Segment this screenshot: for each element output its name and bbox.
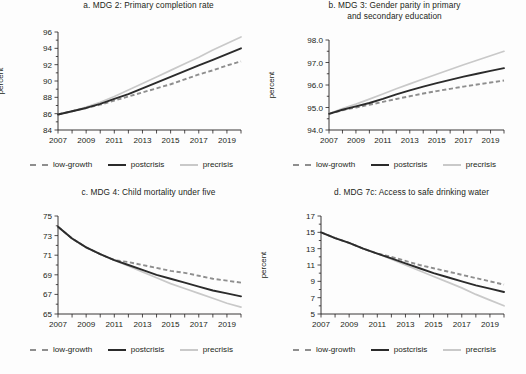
svg-text:94: 94 <box>43 44 53 53</box>
svg-text:13: 13 <box>306 245 316 254</box>
legend-label-postcrisis: postcrisis <box>131 160 165 169</box>
panel-c-title: c. MDG 4: Child mortality under five <box>0 187 263 198</box>
dashed-line-icon <box>293 349 311 351</box>
panel-b-legend: low-growth postcrisis precrisis <box>293 160 496 169</box>
svg-text:2015: 2015 <box>428 136 447 145</box>
svg-text:11: 11 <box>307 261 316 270</box>
legend-item-postcrisis: postcrisis <box>108 160 165 169</box>
panel-d-mdg7c: d. MDG 7c: Access to safe drinking water… <box>263 187 526 374</box>
legend-label-postcrisis: postcrisis <box>394 345 428 354</box>
svg-text:2015: 2015 <box>162 136 181 145</box>
legend-label-precrisis: precrisis <box>203 160 233 169</box>
svg-text:94.0: 94.0 <box>307 126 323 135</box>
svg-text:65: 65 <box>43 310 53 319</box>
svg-text:90: 90 <box>43 77 53 86</box>
legend-item-postcrisis: postcrisis <box>371 345 428 354</box>
panel-c-plot: 6567697173752007200920112013201520172019 <box>42 216 225 314</box>
legend-item-postcrisis: postcrisis <box>108 345 165 354</box>
panel-d-title-line1: d. MDG 7c: Access to safe drinking water <box>334 187 489 197</box>
svg-text:2011: 2011 <box>106 320 124 329</box>
svg-text:2011: 2011 <box>106 136 124 145</box>
svg-text:69: 69 <box>43 271 53 280</box>
svg-text:2011: 2011 <box>374 136 392 145</box>
panel-b-ylabel: percent <box>267 72 276 99</box>
svg-text:2007: 2007 <box>312 320 331 329</box>
legend-label-precrisis: precrisis <box>466 345 496 354</box>
panel-d-title: d. MDG 7c: Access to safe drinking water <box>263 187 526 198</box>
legend-label-precrisis: precrisis <box>203 345 233 354</box>
panel-c-legend: low-growth postcrisis precrisis <box>30 345 233 354</box>
svg-text:2017: 2017 <box>455 136 474 145</box>
svg-text:2015: 2015 <box>425 320 444 329</box>
svg-text:2019: 2019 <box>218 136 237 145</box>
svg-text:2013: 2013 <box>133 136 152 145</box>
svg-text:95.0: 95.0 <box>307 104 323 113</box>
dashed-line-icon <box>30 349 48 351</box>
mdg-indicator-chart-figure: a. MDG 2: Primary completion rate percen… <box>0 0 526 374</box>
legend-label-precrisis: precrisis <box>466 160 496 169</box>
legend-item-low-growth: low-growth <box>293 160 355 169</box>
legend-label-low-growth: low-growth <box>53 345 92 354</box>
panel-d-legend: low-growth postcrisis precrisis <box>293 345 496 354</box>
solid-dark-line-icon <box>371 349 389 351</box>
panel-b-plot: 94.095.096.097.098.020072009201120132015… <box>313 40 488 130</box>
dashed-line-icon <box>30 164 48 166</box>
svg-text:97.0: 97.0 <box>307 59 323 68</box>
svg-text:15: 15 <box>306 228 316 237</box>
legend-item-low-growth: low-growth <box>30 345 92 354</box>
svg-text:2013: 2013 <box>133 320 152 329</box>
panel-b-title: b. MDG 3: Gender parity in primary and s… <box>263 0 526 22</box>
legend-label-postcrisis: postcrisis <box>394 160 428 169</box>
svg-text:86: 86 <box>43 110 53 119</box>
svg-text:2013: 2013 <box>401 136 420 145</box>
legend-item-low-growth: low-growth <box>293 345 355 354</box>
svg-text:71: 71 <box>43 251 53 260</box>
svg-text:2009: 2009 <box>77 136 96 145</box>
panel-b-title-line1: b. MDG 3: Gender parity in primary <box>329 0 461 10</box>
solid-dark-line-icon <box>108 349 126 351</box>
svg-text:9: 9 <box>310 277 315 286</box>
svg-text:2007: 2007 <box>49 320 68 329</box>
solid-dark-line-icon <box>371 164 389 166</box>
panel-d-ylabel: percent <box>259 252 268 279</box>
svg-text:2009: 2009 <box>347 136 366 145</box>
solid-light-line-icon <box>180 164 198 166</box>
legend-item-precrisis: precrisis <box>443 160 496 169</box>
svg-text:73: 73 <box>43 232 53 241</box>
panel-a-ylabel: percent <box>0 68 5 95</box>
dashed-line-icon <box>293 164 311 166</box>
legend-label-low-growth: low-growth <box>316 160 355 169</box>
panel-a-plot: 8486889092949620072009201120132015201720… <box>42 32 225 130</box>
svg-text:75: 75 <box>43 212 53 221</box>
svg-text:2017: 2017 <box>190 320 209 329</box>
legend-label-low-growth: low-growth <box>316 345 355 354</box>
legend-item-precrisis: precrisis <box>180 160 233 169</box>
panel-a-mdg2: a. MDG 2: Primary completion rate percen… <box>0 0 263 187</box>
panel-c-title-line1: c. MDG 4: Child mortality under five <box>82 187 216 197</box>
solid-dark-line-icon <box>108 164 126 166</box>
svg-text:84: 84 <box>43 126 53 135</box>
panel-b-title-line2: and secondary education <box>347 11 442 21</box>
svg-text:2015: 2015 <box>162 320 181 329</box>
svg-text:2019: 2019 <box>218 320 237 329</box>
legend-item-low-growth: low-growth <box>30 160 92 169</box>
svg-text:5: 5 <box>310 310 315 319</box>
svg-text:2011: 2011 <box>369 320 387 329</box>
svg-text:2009: 2009 <box>340 320 359 329</box>
svg-text:92: 92 <box>43 61 53 70</box>
svg-text:96: 96 <box>43 28 53 37</box>
svg-text:2009: 2009 <box>77 320 96 329</box>
svg-text:96.0: 96.0 <box>307 81 323 90</box>
panel-a-title: a. MDG 2: Primary completion rate <box>0 0 263 11</box>
legend-item-postcrisis: postcrisis <box>371 160 428 169</box>
solid-light-line-icon <box>443 164 461 166</box>
panel-c-mdg4: c. MDG 4: Child mortality under five dea… <box>0 187 263 374</box>
panel-a-legend: low-growth postcrisis precrisis <box>30 160 233 169</box>
svg-text:88: 88 <box>43 93 53 102</box>
svg-text:98.0: 98.0 <box>307 36 323 45</box>
legend-label-low-growth: low-growth <box>53 160 92 169</box>
svg-text:7: 7 <box>310 294 315 303</box>
svg-text:2017: 2017 <box>190 136 209 145</box>
panel-d-plot: 579111315172007200920112013201520172019 <box>305 216 488 314</box>
svg-text:67: 67 <box>43 290 53 299</box>
